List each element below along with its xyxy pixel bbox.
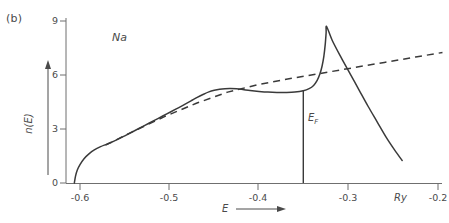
x-tick-label-3: -0.3 — [328, 192, 368, 203]
y-tick-label-3: 3 — [42, 123, 58, 134]
x-tick-label-0: -0.6 — [60, 192, 100, 203]
x-tick-label-2: -0.4 — [238, 192, 278, 203]
density-of-states-curve — [74, 26, 402, 183]
figure-panel: (b) Na EF Ry n(E) E — [0, 0, 449, 223]
plot-canvas — [0, 0, 449, 223]
y-tick-label-0: 0 — [42, 177, 58, 188]
y-tick-label-9: 9 — [42, 15, 58, 26]
x-axis-arrow — [236, 206, 286, 212]
series-group — [74, 26, 442, 183]
x-tick-label-4: -0.2 — [418, 192, 449, 203]
x-tick-marks — [80, 183, 438, 190]
y-tick-marks — [60, 21, 66, 183]
free-electron-parabola-curve — [106, 53, 443, 146]
x-tick-label-1: -0.5 — [149, 192, 189, 203]
y-tick-label-6: 6 — [42, 69, 58, 80]
